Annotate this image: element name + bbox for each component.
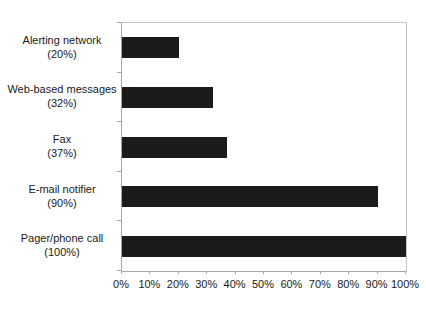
value-axis-tick [291, 271, 292, 274]
category-axis-tick [117, 22, 121, 23]
category-axis-tick [117, 72, 121, 73]
bar-chart: Alerting network(20%)Web-based messages(… [0, 0, 426, 310]
category-name: E-mail notifier [28, 182, 95, 196]
category-axis-tick [117, 220, 121, 221]
category-name: Pager/phone call [21, 231, 104, 245]
value-axis-tick [320, 271, 321, 274]
category-percent: (90%) [47, 196, 76, 210]
bar [122, 236, 406, 257]
x-tick-label: 100% [385, 278, 425, 290]
bar [122, 137, 227, 158]
category-label: Pager/phone call(100%) [6, 220, 118, 270]
category-name: Fax [53, 132, 71, 146]
category-axis-tick [117, 171, 121, 172]
value-axis-tick [149, 271, 150, 274]
value-axis-tick [377, 271, 378, 274]
category-label: Alerting network(20%) [6, 22, 118, 72]
category-percent: (37%) [47, 146, 76, 160]
category-axis-tick [117, 270, 121, 271]
value-axis-tick [121, 271, 122, 274]
value-axis-tick [263, 271, 264, 274]
category-name: Alerting network [23, 33, 102, 47]
value-axis-tick [235, 271, 236, 274]
value-axis-tick [405, 271, 406, 274]
value-axis-tick [206, 271, 207, 274]
plot-area [121, 22, 407, 272]
bar [122, 37, 179, 58]
category-name: Web-based messages [7, 82, 116, 96]
category-label: Web-based messages(32%) [6, 72, 118, 122]
value-axis-tick [178, 271, 179, 274]
category-axis-tick [117, 121, 121, 122]
category-percent: (32%) [47, 96, 76, 110]
category-percent: (20%) [47, 47, 76, 61]
bar [122, 87, 213, 108]
bar [122, 186, 378, 207]
category-label: Fax(37%) [6, 121, 118, 171]
category-label: E-mail notifier(90%) [6, 171, 118, 221]
value-axis-tick [348, 271, 349, 274]
category-percent: (100%) [44, 245, 79, 259]
